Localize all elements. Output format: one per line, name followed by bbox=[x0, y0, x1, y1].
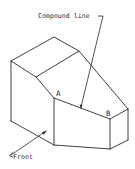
left-bottom-edge bbox=[11, 121, 54, 145]
bottom-right-edge bbox=[110, 140, 128, 149]
b-right-edge bbox=[110, 109, 128, 119]
slope-left-edge bbox=[36, 77, 54, 98]
vertex-b-label: B bbox=[106, 109, 111, 118]
compound-line-edge bbox=[54, 98, 110, 119]
slope-right-edge bbox=[79, 51, 128, 109]
bottom-front-edge bbox=[54, 145, 110, 149]
vertex-a-label: A bbox=[56, 89, 61, 98]
compound-line-leader bbox=[81, 16, 103, 107]
front-label: Front bbox=[13, 153, 33, 161]
compound-line-label: Compound line bbox=[38, 12, 90, 20]
top-face bbox=[11, 37, 79, 77]
isometric-block-diagram: Compound line A B Front bbox=[0, 0, 135, 169]
front-arrow-line bbox=[11, 131, 46, 155]
front-arrow-head-icon bbox=[42, 130, 47, 135]
